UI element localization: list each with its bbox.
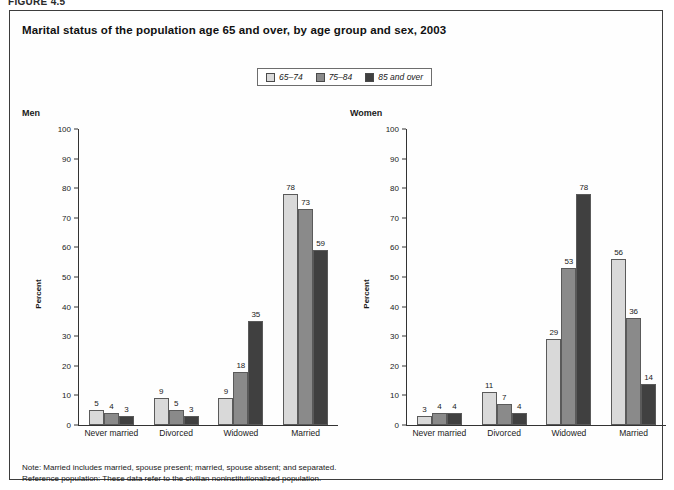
bar[interactable] bbox=[104, 413, 119, 425]
bar[interactable] bbox=[119, 416, 134, 425]
bar-wrap: 73 bbox=[298, 129, 313, 425]
bar[interactable] bbox=[248, 321, 263, 425]
bar[interactable] bbox=[313, 250, 328, 425]
y-tick-label: 70 bbox=[54, 213, 71, 222]
y-tick-men-80: 80 bbox=[54, 184, 78, 193]
bar-value-label: 4 bbox=[442, 402, 466, 411]
chart-legend: 65–74 75–84 85 and over bbox=[257, 68, 432, 86]
bar[interactable] bbox=[233, 372, 248, 425]
bar[interactable] bbox=[641, 384, 656, 425]
bar-wrap: 78 bbox=[283, 129, 298, 425]
bar-group: 787359 bbox=[273, 129, 338, 425]
figure-panel: Marital status of the population age 65 … bbox=[9, 10, 663, 480]
y-tick-label: 90 bbox=[54, 154, 71, 163]
bar[interactable] bbox=[283, 194, 298, 425]
bar-wrap: 11 bbox=[482, 129, 497, 425]
y-tick-label: 60 bbox=[54, 243, 71, 252]
bar[interactable] bbox=[576, 194, 591, 425]
legend-swatch-65-74 bbox=[266, 73, 275, 82]
bar-wrap: 14 bbox=[641, 129, 656, 425]
x-axis-label: Married bbox=[601, 428, 666, 438]
bar-group: 344 bbox=[407, 129, 472, 425]
bar[interactable] bbox=[184, 416, 199, 425]
y-tick-label: 0 bbox=[382, 421, 399, 430]
bar-wrap: 5 bbox=[89, 129, 104, 425]
y-tick-label: 20 bbox=[54, 361, 71, 370]
legend-item-65-74[interactable]: 65–74 bbox=[266, 72, 303, 82]
y-tick-label: 50 bbox=[54, 273, 71, 282]
bar-wrap: 5 bbox=[169, 129, 184, 425]
x-axis-line-men bbox=[78, 425, 338, 426]
y-tick-men-10: 10 bbox=[54, 391, 78, 400]
y-tick-label: 50 bbox=[382, 273, 399, 282]
y-tick-label: 0 bbox=[54, 421, 71, 430]
y-tick-women-40: 40 bbox=[382, 302, 406, 311]
bar-wrap: 7 bbox=[497, 129, 512, 425]
bar-group: 295378 bbox=[537, 129, 602, 425]
bar-group: 563614 bbox=[601, 129, 666, 425]
y-tick-men-0: 0 bbox=[54, 421, 78, 430]
y-tick-label: 40 bbox=[54, 302, 71, 311]
bar[interactable] bbox=[447, 413, 462, 425]
y-tick-men-90: 90 bbox=[54, 154, 78, 163]
plot-area-women: 3441174295378563614 bbox=[407, 129, 666, 425]
y-tick-men-20: 20 bbox=[54, 361, 78, 370]
bar-wrap: 29 bbox=[546, 129, 561, 425]
y-tick-women-70: 70 bbox=[382, 213, 406, 222]
bar[interactable] bbox=[561, 268, 576, 425]
bar[interactable] bbox=[546, 339, 561, 425]
legend-swatch-85-and-over bbox=[365, 73, 374, 82]
bar[interactable] bbox=[218, 398, 233, 425]
y-tick-women-10: 10 bbox=[382, 391, 406, 400]
bar[interactable] bbox=[432, 413, 447, 425]
bar-group: 91835 bbox=[209, 129, 274, 425]
bar-value-label: 59 bbox=[309, 239, 333, 248]
bar[interactable] bbox=[417, 416, 432, 425]
bar[interactable] bbox=[89, 410, 104, 425]
y-tick-women-50: 50 bbox=[382, 273, 406, 282]
x-axis-label: Never married bbox=[79, 428, 144, 438]
y-tick-men-100: 100 bbox=[54, 125, 78, 134]
legend-label-65-74: 65–74 bbox=[279, 72, 303, 82]
y-tick-men-30: 30 bbox=[54, 332, 78, 341]
y-tick-label: 70 bbox=[382, 213, 399, 222]
x-axis-label: Never married bbox=[407, 428, 472, 438]
y-tick-women-60: 60 bbox=[382, 243, 406, 252]
bar-wrap: 18 bbox=[233, 129, 248, 425]
legend-item-85-and-over[interactable]: 85 and over bbox=[365, 72, 423, 82]
x-axis-label: Divorced bbox=[144, 428, 209, 438]
axis-area-men: 0102030405060708090100 54395391835787359… bbox=[52, 129, 338, 459]
bar-group: 953 bbox=[144, 129, 209, 425]
bar[interactable] bbox=[611, 259, 626, 425]
bar-wrap: 3 bbox=[417, 129, 432, 425]
y-tick-men-40: 40 bbox=[54, 302, 78, 311]
bar-wrap: 4 bbox=[432, 129, 447, 425]
y-tick-women-90: 90 bbox=[382, 154, 406, 163]
x-axis-label: Widowed bbox=[209, 428, 274, 438]
x-axis-label: Married bbox=[273, 428, 338, 438]
legend-label-75-84: 75–84 bbox=[329, 72, 353, 82]
figure-notes: Note: Married includes married, spouse p… bbox=[22, 463, 336, 484]
y-tick-label: 100 bbox=[382, 125, 399, 134]
bar-group: 543 bbox=[79, 129, 144, 425]
note-line-2: Reference population: These data refer t… bbox=[22, 474, 336, 485]
figure-label: FIGURE 4.5 bbox=[8, 0, 65, 7]
bar-wrap: 56 bbox=[611, 129, 626, 425]
y-tick-men-70: 70 bbox=[54, 213, 78, 222]
x-axis-labels-women: Never marriedDivorcedWidowedMarried bbox=[407, 428, 666, 438]
plot-area-men: 54395391835787359 bbox=[79, 129, 338, 425]
y-tick-label: 10 bbox=[382, 391, 399, 400]
y-tick-men-60: 60 bbox=[54, 243, 78, 252]
x-axis-line-women bbox=[406, 425, 666, 426]
bar-wrap: 3 bbox=[184, 129, 199, 425]
legend-item-75-84[interactable]: 75–84 bbox=[316, 72, 353, 82]
bar-wrap: 4 bbox=[512, 129, 527, 425]
bar-wrap: 4 bbox=[104, 129, 119, 425]
bar-wrap: 4 bbox=[447, 129, 462, 425]
bar[interactable] bbox=[512, 413, 527, 425]
y-tick-label: 40 bbox=[382, 302, 399, 311]
y-axis-title-women: Percent bbox=[362, 279, 371, 308]
x-axis-label: Divorced bbox=[472, 428, 537, 438]
bar-wrap: 59 bbox=[313, 129, 328, 425]
bar-value-label: 78 bbox=[572, 183, 596, 192]
